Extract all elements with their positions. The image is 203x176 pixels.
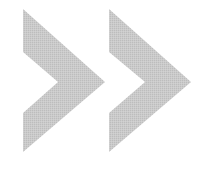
double-chevron-canvas (0, 0, 203, 176)
chevron-right-icon (23, 9, 105, 152)
double-chevron-right-icon (0, 0, 203, 176)
chevron-right-icon (109, 9, 191, 152)
